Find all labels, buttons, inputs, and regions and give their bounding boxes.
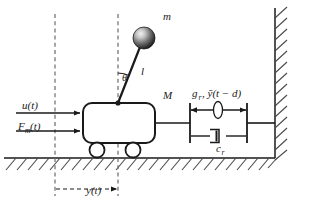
cart bbox=[83, 103, 155, 158]
label-control-input: u(t) bbox=[22, 99, 38, 112]
label-pendulum-length: l bbox=[141, 65, 144, 77]
cart-body bbox=[83, 103, 155, 143]
wall-hatching bbox=[275, 7, 287, 160]
label-applied-force: F m (t) bbox=[17, 120, 41, 135]
damper-cylinder bbox=[210, 130, 219, 143]
label-applied-force-base: F bbox=[17, 120, 25, 132]
suspension-assembly bbox=[155, 102, 275, 144]
spring-ellipse bbox=[214, 102, 223, 119]
label-applied-force-tail: (t) bbox=[30, 120, 41, 133]
pendulum-pivot bbox=[115, 100, 120, 105]
label-cart-mass: M bbox=[162, 89, 173, 101]
right-wall bbox=[275, 7, 287, 160]
ground bbox=[4, 158, 277, 170]
damper-element bbox=[191, 130, 246, 143]
pendulum bbox=[115, 27, 155, 106]
cart-wheel-left bbox=[90, 143, 105, 158]
label-damper-sub: r bbox=[222, 148, 225, 157]
label-damper-coefficient: c r bbox=[216, 142, 225, 157]
pendulum-bob bbox=[133, 27, 155, 49]
label-spring-gain-tail: , ỹ(t − d) bbox=[202, 87, 242, 100]
label-pendulum-mass: m bbox=[163, 10, 171, 22]
label-spring-gain-base: g bbox=[192, 87, 198, 99]
ground-hatching bbox=[6, 158, 277, 170]
label-pendulum-angle: θ bbox=[122, 72, 127, 83]
label-damper-base: c bbox=[216, 142, 221, 154]
cart-wheel-right bbox=[126, 143, 141, 158]
mechanical-system-diagram: m θ l M u(t) F m (t) y(t) g r , ỹ(t − d)… bbox=[0, 0, 312, 205]
label-spring-gain: g r , ỹ(t − d) bbox=[192, 87, 242, 102]
spring-element bbox=[191, 102, 246, 119]
diagram-canvas: m θ l M u(t) F m (t) y(t) g r , ỹ(t − d)… bbox=[0, 0, 312, 205]
label-displacement: y(t) bbox=[85, 184, 102, 197]
